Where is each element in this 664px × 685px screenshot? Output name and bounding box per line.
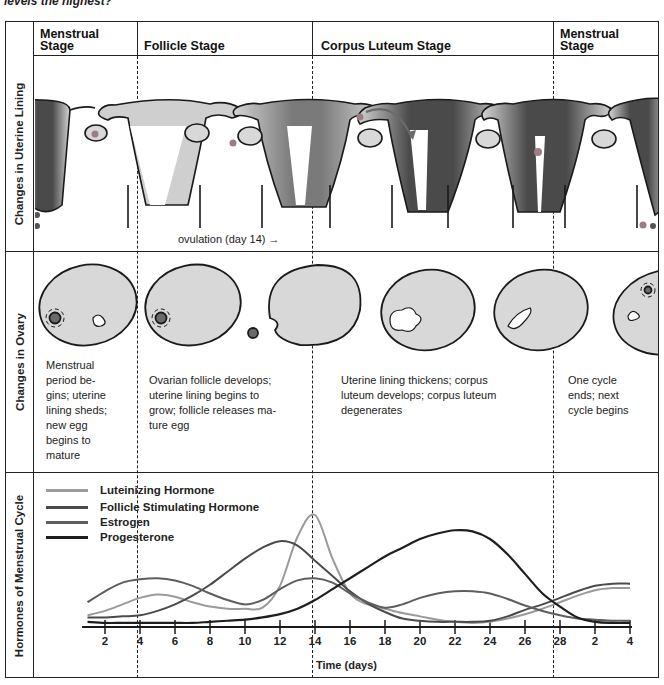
- x-tick-label: 22: [443, 635, 467, 647]
- x-tick-label: 4: [128, 635, 152, 647]
- x-tick-label: 8: [198, 635, 222, 647]
- x-tick-label: 28: [548, 635, 572, 647]
- x-axis-title: Time (days): [316, 659, 377, 671]
- x-tick-label: 24: [478, 635, 502, 647]
- x-tick-label: 20: [408, 635, 432, 647]
- x-tick-label: 26: [513, 635, 537, 647]
- x-tick-label: 18: [373, 635, 397, 647]
- x-tick-label: 16: [338, 635, 362, 647]
- x-tick-label: 14: [303, 635, 327, 647]
- x-tick-label: 4: [618, 635, 642, 647]
- curve-follicle-stimulating-hormone: [88, 541, 631, 622]
- hormone-curves: [88, 514, 631, 623]
- x-tick-label: 2: [583, 635, 607, 647]
- x-tick-label: 10: [233, 635, 257, 647]
- x-tick-label: 2: [93, 635, 117, 647]
- curve-progesterone: [88, 530, 631, 623]
- x-tick-label: 6: [163, 635, 187, 647]
- x-tick-label: 12: [268, 635, 292, 647]
- hormone-chart: [0, 0, 664, 685]
